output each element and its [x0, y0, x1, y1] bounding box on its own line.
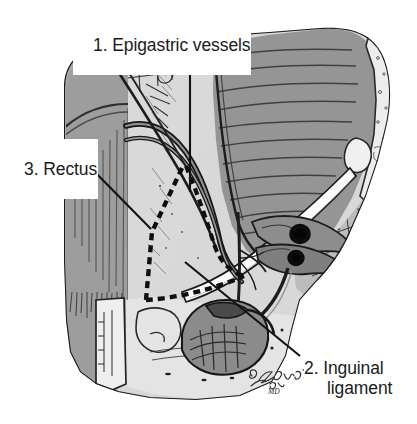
label-2-line-2: ligament: [327, 378, 392, 398]
pubic-symphysis: [96, 298, 126, 390]
label-rectus: 3. Rectus: [4, 139, 98, 199]
label-1-text: 1. Epigastric vessels: [93, 35, 250, 55]
anatomical-figure: MD 1. Epigastric vessels 3. Rectus 2. In…: [0, 0, 417, 424]
label-3-text: 3. Rectus: [24, 159, 97, 179]
iliac-spine-knob: [344, 138, 371, 172]
label-2-line-1: 2. Inguinal: [304, 358, 384, 378]
label-inguinal-ligament: 2. Inguinal ligament: [303, 358, 417, 398]
signature-credential-text: MD: [267, 387, 280, 396]
label-epigastric-vessels: 1. Epigastric vessels: [73, 15, 251, 75]
